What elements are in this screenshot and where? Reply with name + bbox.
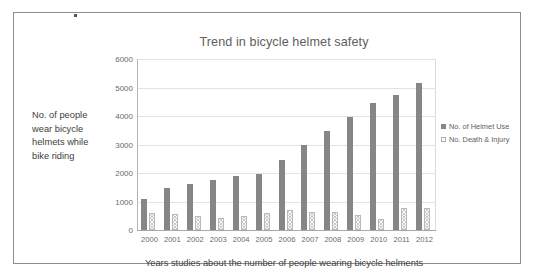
x-tick-label: 2009 — [347, 235, 364, 244]
x-tick-label: 2010 — [370, 235, 387, 244]
bar-helmet-use — [416, 83, 422, 230]
bar-group — [321, 59, 344, 230]
y-tick-label: 4000 — [115, 112, 133, 121]
bar-helmet-use — [301, 145, 307, 230]
x-tick-label: 2005 — [256, 235, 273, 244]
x-tick-label: 2000 — [141, 235, 158, 244]
legend-swatch-icon-series2 — [441, 137, 446, 142]
bar-helmet-use — [141, 199, 147, 230]
bar-death-injury — [309, 212, 315, 230]
bar-group — [161, 59, 184, 230]
bar-death-injury — [241, 216, 247, 230]
bar-death-injury — [172, 214, 178, 230]
y-tick-label: 6000 — [115, 55, 133, 64]
legend-item-death-injury: No. Death & Injury — [441, 133, 533, 145]
bar-death-injury — [424, 208, 430, 230]
bar-helmet-use — [347, 117, 353, 230]
y-axis-caption-line-4: bike riding — [32, 150, 116, 164]
bar-series-container — [138, 59, 436, 230]
bar-death-injury — [149, 213, 155, 230]
y-axis-caption-line-2: wear bicycle — [32, 123, 116, 137]
chart-figure-frame: Trend in bicycle helmet safety No. of pe… — [13, 12, 521, 264]
chart-title: Trend in bicycle helmet safety — [134, 35, 434, 49]
bar-helmet-use — [256, 174, 262, 230]
bar-group — [207, 59, 230, 230]
bar-group — [344, 59, 367, 230]
bar-helmet-use — [279, 160, 285, 230]
legend-swatch-icon-series1 — [441, 124, 446, 129]
bar-helmet-use — [233, 176, 239, 230]
bar-helmet-use — [370, 103, 376, 230]
bar-death-injury — [264, 213, 270, 230]
y-tick-label: 1000 — [115, 197, 133, 206]
bar-group — [276, 59, 299, 230]
y-tick-label: 5000 — [115, 83, 133, 92]
bar-helmet-use — [324, 131, 330, 230]
x-tick-label: 2002 — [187, 235, 204, 244]
y-axis-caption: No. of people wear bicycle helmets while… — [32, 109, 116, 163]
bar-group — [138, 59, 161, 230]
legend-label-series2: No. Death & Injury — [449, 135, 509, 144]
x-tick-labels: 2000200120022003200420052006200720082009… — [137, 235, 436, 247]
x-axis-caption: Years studies about the number of people… — [74, 258, 494, 268]
bar-group — [298, 59, 321, 230]
x-tick-label: 2007 — [301, 235, 318, 244]
bar-death-injury — [401, 208, 407, 231]
legend-item-helmet-use: No. of Helmet Use — [441, 120, 533, 132]
bar-group — [390, 59, 413, 230]
x-axis-line — [137, 230, 436, 231]
bar-helmet-use — [210, 180, 216, 230]
bar-group — [253, 59, 276, 230]
bar-death-injury — [378, 219, 384, 230]
bar-helmet-use — [187, 184, 193, 230]
y-axis-caption-line-1: No. of people — [32, 109, 116, 123]
bar-death-injury — [332, 212, 338, 230]
bar-group — [230, 59, 253, 230]
bar-death-injury — [195, 216, 201, 230]
x-tick-label: 2008 — [324, 235, 341, 244]
bar-death-injury — [355, 215, 361, 230]
chart-legend: No. of Helmet Use No. Death & Injury — [441, 120, 533, 146]
y-tick-label: 3000 — [115, 140, 133, 149]
bar-helmet-use — [393, 95, 399, 230]
x-tick-label: 2006 — [279, 235, 296, 244]
x-tick-label: 2003 — [210, 235, 227, 244]
page-speck-mark — [74, 14, 77, 17]
y-tick-label: 0 — [129, 226, 133, 235]
bar-death-injury — [218, 218, 224, 230]
legend-label-series1: No. of Helmet Use — [449, 122, 509, 131]
x-tick-label: 2004 — [233, 235, 250, 244]
y-tick-label: 2000 — [115, 169, 133, 178]
x-tick-label: 2001 — [164, 235, 181, 244]
screenshot-root: Trend in bicycle helmet safety No. of pe… — [0, 0, 534, 278]
y-axis-caption-line-3: helmets while — [32, 136, 116, 150]
bar-group — [367, 59, 390, 230]
x-tick-label: 2012 — [416, 235, 433, 244]
bar-group — [413, 59, 436, 230]
bar-helmet-use — [164, 188, 170, 230]
x-tick-label: 2011 — [393, 235, 409, 244]
plot-area: 0100020003000400050006000 — [137, 59, 436, 230]
bar-death-injury — [287, 210, 293, 230]
bar-group — [184, 59, 207, 230]
